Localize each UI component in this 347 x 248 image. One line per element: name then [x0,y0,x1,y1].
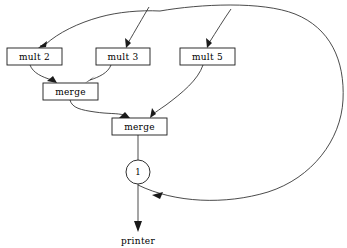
edge-mult5-to-merge2 [153,65,203,114]
arrowhead-printer [134,221,142,232]
arrowhead-merge1-right [85,76,95,83]
arrowhead-merge2-left [119,112,130,118]
node-mult3[interactable]: mult 3 [96,48,150,65]
stream-diagram: mult 2 mult 3 mult 5 merge merge 1 print [0,0,347,248]
edge-mult2-to-merge1 [30,65,52,80]
node-delay[interactable]: 1 [126,160,150,184]
arrowhead-merge2-right [150,108,156,118]
diagram-canvas: mult 2 mult 3 mult 5 merge merge 1 print [0,0,347,248]
edge-mult3-to-merge1 [90,65,111,80]
edge-merge1-to-merge2 [70,100,124,115]
node-printer-label: printer [121,236,155,246]
arrowhead-mult2 [38,41,47,48]
node-delay-label: 1 [135,167,140,177]
node-merge2[interactable]: merge [112,118,167,135]
node-mult2[interactable]: mult 2 [7,48,62,65]
edge-feedback-top-trunk [46,11,160,44]
node-merge1-label: merge [55,87,86,97]
node-mult2-label: mult 2 [19,52,50,62]
node-mult3-label: mult 3 [107,52,138,62]
edge-feedback-to-mult3 [128,7,149,43]
node-mult5-label: mult 5 [192,52,223,62]
node-mult5[interactable]: mult 5 [180,48,235,65]
node-merge2-label: merge [124,122,155,132]
arrowhead-merge1-left [47,76,57,83]
node-merge1[interactable]: merge [43,83,98,100]
edge-feedback-to-mult5 [209,9,231,43]
